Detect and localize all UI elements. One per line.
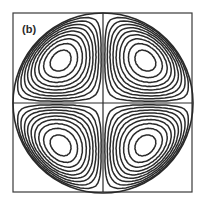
contour-line (50, 50, 71, 71)
contour-line (135, 135, 156, 156)
contour-line (50, 135, 71, 156)
panel-label: (b) (22, 23, 36, 35)
contour-line (135, 50, 156, 71)
vortex-cell-bottom-right (105, 105, 189, 189)
vortex-cell-top-right (105, 17, 189, 101)
vortex-cell-bottom-left (18, 105, 102, 189)
